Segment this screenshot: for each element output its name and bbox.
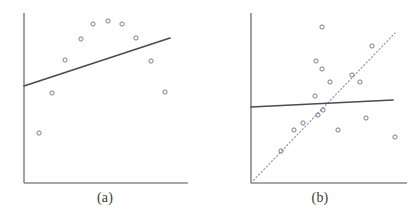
data-point [336, 128, 340, 132]
panel-a-regression-line [24, 38, 170, 86]
data-point [149, 59, 153, 63]
data-point [50, 91, 54, 95]
data-point [313, 94, 317, 98]
data-point [301, 121, 305, 125]
panel-a-axes [24, 13, 188, 183]
data-point [106, 19, 110, 23]
data-point [120, 22, 124, 26]
chart-panel-b: (b) [210, 0, 419, 218]
panel-b-axes [251, 13, 407, 183]
panel-a-fit-line-group [24, 38, 170, 86]
data-point [63, 58, 67, 62]
data-point [163, 90, 167, 94]
data-point [320, 67, 324, 71]
data-point [314, 59, 318, 63]
panel-b-data-points [279, 25, 397, 153]
panel-a-plot [0, 0, 210, 190]
panel-b-fit-line-group [251, 100, 393, 107]
data-point [358, 80, 362, 84]
panel-a-data-points [37, 19, 167, 135]
data-point [393, 135, 397, 139]
figure-container: (a) [0, 0, 419, 218]
data-point [364, 116, 368, 120]
data-point [134, 36, 138, 40]
data-point [370, 44, 374, 48]
data-point [350, 73, 354, 77]
panel-a-caption: (a) [55, 190, 155, 206]
panel-b-plot [210, 0, 419, 190]
data-point [79, 37, 83, 41]
chart-panel-a: (a) [0, 0, 210, 218]
data-point [328, 80, 332, 84]
panel-b-caption: (b) [270, 190, 370, 206]
data-point [292, 128, 296, 132]
panel-b-regression-line [251, 100, 393, 107]
data-point [320, 25, 324, 29]
data-point [37, 131, 41, 135]
data-point [91, 22, 95, 26]
